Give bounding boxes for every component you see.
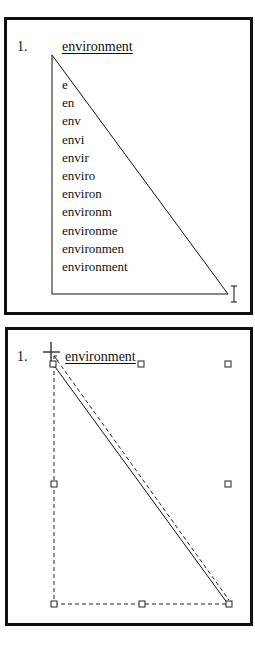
resize-handle[interactable]: [225, 361, 231, 367]
resize-handle[interactable]: [51, 601, 57, 607]
resize-handle[interactable]: [138, 361, 144, 367]
diagram-overlay: [0, 0, 255, 655]
resize-handle[interactable]: [139, 601, 145, 607]
resize-handle[interactable]: [225, 481, 231, 487]
i-beam-cursor-icon: [231, 286, 237, 302]
triangle-hypotenuse: [52, 55, 228, 294]
resize-handle[interactable]: [50, 361, 56, 367]
crosshair-cursor-icon: [43, 342, 60, 361]
selection-box: [54, 360, 229, 604]
arrow-pointer-icon: [54, 356, 58, 361]
resize-handle[interactable]: [51, 481, 57, 487]
triangle-shape: [52, 55, 228, 294]
selected-line[interactable]: [53, 364, 228, 604]
resize-handle[interactable]: [226, 601, 232, 607]
